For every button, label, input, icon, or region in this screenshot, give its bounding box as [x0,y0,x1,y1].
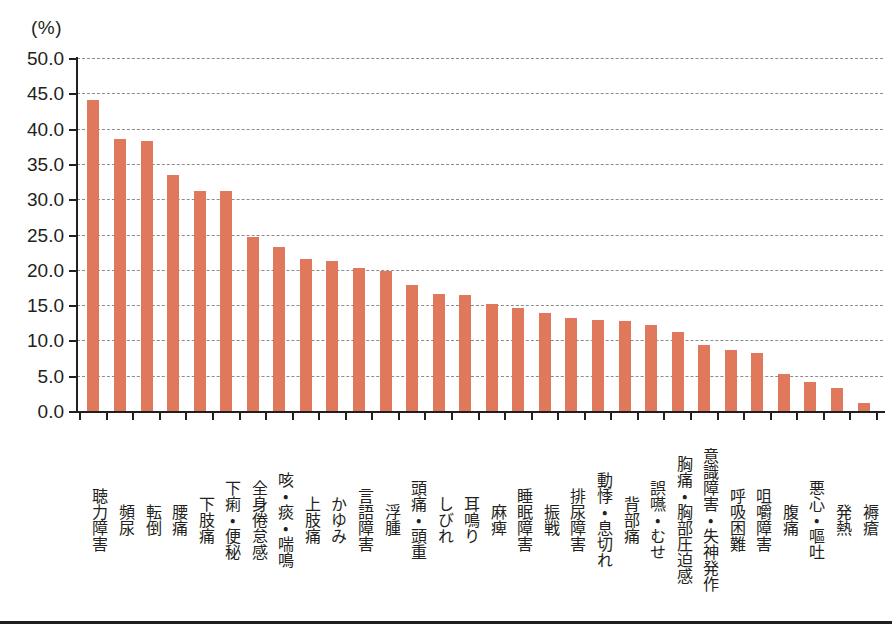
x-axis-tick [531,413,533,420]
bar-slot [585,58,612,411]
bar [619,321,631,411]
x-axis-tick [876,413,878,420]
bar [141,141,153,411]
bar-slot [107,58,134,411]
y-axis-tick [69,411,78,413]
bar-slot [718,58,745,411]
x-axis-tick [159,413,161,420]
x-axis-tick [424,413,426,420]
x-axis-category-label: 転倒 [134,422,160,618]
bar-slot [186,58,213,411]
x-axis-category-label: 耳鳴り [452,422,478,618]
x-axis-category-label: 悪心・嘔吐 [797,422,823,618]
y-axis-tick-labels: 50.045.040.035.030.025.020.015.010.05.00… [0,0,64,626]
bar [380,271,392,411]
x-axis-tick [504,413,506,420]
x-axis-category-label: 呼吸困難 [718,422,744,618]
x-axis-tick [770,413,772,420]
bar [565,318,577,411]
bar [273,247,285,411]
y-axis-tick-label: 30.0 [2,190,64,209]
bar-slot [346,58,373,411]
x-axis-category-label: しびれ [426,422,452,618]
bar-slot [505,58,532,411]
y-axis-tick-label: 0.0 [2,402,64,421]
x-axis-category-label: 意識障害・失神発作 [691,422,717,618]
bar-slot [532,58,559,411]
x-axis-category-label: 腹痛 [771,422,797,618]
bar-slot [319,58,346,411]
y-axis-tick [69,164,78,166]
y-axis-tick-label: 5.0 [2,366,64,385]
bar [114,139,126,411]
bar-slot [771,58,798,411]
x-axis-tick [610,413,612,420]
x-axis-tick [849,413,851,420]
x-axis-tick [637,413,639,420]
bar-slot [452,58,479,411]
bar [486,304,498,411]
y-axis-tick [69,199,78,201]
bar [326,261,338,411]
x-axis-tick [345,413,347,420]
x-axis-ticks [77,413,883,421]
bar-slot [266,58,293,411]
bar-slot [479,58,506,411]
x-axis-tick [823,413,825,420]
bar-slot [558,58,585,411]
x-axis-tick [584,413,586,420]
x-axis-tick [371,413,373,420]
bar-slot [133,58,160,411]
x-axis-category-label: 咳・痰・喘鳴 [266,422,292,618]
y-axis-tick-label: 20.0 [2,260,64,279]
x-axis-category-label: 全身倦怠感 [240,422,266,618]
x-axis-category-label: 言語障害 [346,422,372,618]
x-axis-category-label: 上肢痛 [293,422,319,618]
y-axis-tick [69,376,78,378]
bottom-rule [0,621,892,624]
x-axis-tick [212,413,214,420]
x-axis-category-label: 腰痛 [160,422,186,618]
bar-slot [664,58,691,411]
y-axis-tick-label: 35.0 [2,154,64,173]
bar [539,313,551,411]
x-axis-category-label: 背部痛 [612,422,638,618]
bar [247,237,259,411]
bar [512,308,524,411]
bar-slot [80,58,107,411]
x-axis-category-label: 睡眠障害 [505,422,531,618]
bar-chart: (%) 50.045.040.035.030.025.020.015.010.0… [0,0,892,626]
bar [804,382,816,411]
x-axis-category-label: 動悸・息切れ [585,422,611,618]
x-axis-tick [451,413,453,420]
x-axis-category-label: 頻尿 [107,422,133,618]
y-axis-tick [69,270,78,272]
x-axis-tick [132,413,134,420]
x-axis-category-label: 排尿障害 [558,422,584,618]
bar [300,259,312,411]
y-axis-tick-label: 25.0 [2,225,64,244]
bar-slot [797,58,824,411]
x-axis-category-label: 咀嚼障害 [744,422,770,618]
bar [751,353,763,411]
y-axis-tick-label: 40.0 [2,119,64,138]
x-axis-tick [743,413,745,420]
x-axis-tick [106,413,108,420]
bar-slot [213,58,240,411]
bar [167,175,179,411]
y-axis-tick [69,305,78,307]
x-axis-category-label: かゆみ [319,422,345,618]
x-axis-category-label: 誤嚥・むせ [638,422,664,618]
bar [698,345,710,411]
bar [778,374,790,411]
y-axis-tick [69,93,78,95]
bar [194,191,206,411]
x-axis-category-label: 浮腫 [373,422,399,618]
bar [459,295,471,411]
y-axis-tick-label: 50.0 [2,49,64,68]
x-axis-tick [796,413,798,420]
x-axis-category-label: 下肢痛 [187,422,213,618]
x-axis-tick [478,413,480,420]
x-axis-tick [79,413,81,420]
bar [672,332,684,411]
